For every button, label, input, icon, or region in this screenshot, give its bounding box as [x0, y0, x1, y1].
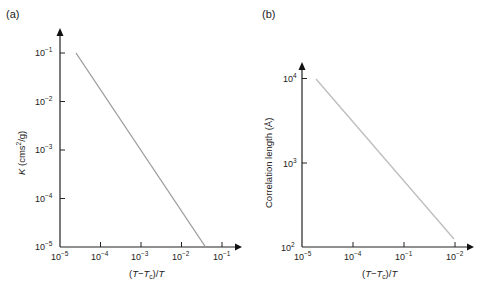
x-axis-title-b: (T−Tc)/T — [362, 268, 398, 280]
x-tick-label: 10−1 — [213, 250, 231, 262]
x-tick-label: 10−5 — [51, 250, 69, 262]
data-line-a — [76, 53, 206, 247]
y-tick-label: 102 — [281, 241, 295, 253]
x-tick-label: 10−5 — [294, 250, 312, 262]
y-ticks-a — [60, 53, 65, 199]
x-tick-label: 10−2 — [172, 250, 190, 262]
y-axis-title-b: Correlation length (Å) — [263, 118, 274, 208]
x-tick-label: 10−4 — [344, 250, 362, 262]
panel-label-b: (b) — [262, 8, 275, 20]
y-tick-label: 10−2 — [35, 95, 53, 107]
panel-b: (b) 104 103 102 10−5 10−4 10−1 10−2 — [262, 8, 474, 280]
y-ticks-b — [302, 79, 307, 164]
y-tick-labels-a: 10−1 10−2 10−3 10−4 10−5 — [35, 46, 53, 252]
y-tick-label: 10−1 — [35, 46, 53, 58]
x-axis-arrow-icon — [467, 244, 474, 251]
x-tick-label: 10−3 — [131, 250, 149, 262]
y-tick-label: 104 — [283, 72, 297, 84]
y-axis-arrow-icon — [57, 28, 64, 36]
y-axis-title-a: K (cms2/g) — [15, 131, 27, 175]
y-tick-labels-b: 104 103 102 — [281, 72, 297, 253]
x-tick-label: 10−1 — [395, 250, 413, 262]
x-ticks-b — [353, 242, 455, 247]
x-tick-label: 10−2 — [446, 250, 464, 262]
x-axis-arrow-icon — [235, 244, 242, 251]
x-tick-label: 10−4 — [91, 250, 109, 262]
y-tick-label: 10−3 — [35, 143, 53, 155]
y-tick-label: 103 — [283, 157, 297, 169]
data-line-b — [316, 79, 454, 239]
figure: (a) 10−1 10−2 10−3 10−4 10−5 10−5 — [0, 0, 482, 292]
x-tick-labels-b: 10−5 10−4 10−1 10−2 — [294, 250, 464, 262]
y-axis-arrow-icon — [299, 62, 306, 70]
x-axis-title-a: (T−Tc)/T — [129, 268, 165, 280]
y-tick-label: 10−4 — [35, 192, 53, 204]
panel-label-a: (a) — [6, 8, 19, 20]
y-tick-label: 10−5 — [35, 240, 53, 252]
panel-a: (a) 10−1 10−2 10−3 10−4 10−5 10−5 — [6, 8, 242, 280]
x-tick-labels-a: 10−5 10−4 10−3 10−2 10−1 — [51, 250, 231, 262]
